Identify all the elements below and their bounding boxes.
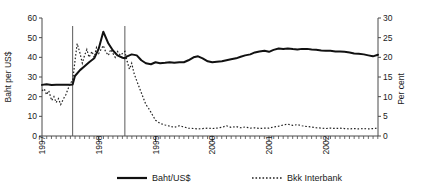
left-axis-tick-label: 40 (28, 52, 38, 62)
legend-label-baht: Baht/US$ (152, 173, 191, 183)
left-axis-tick-label: 60 (28, 13, 38, 23)
legend-label-interbank: Bkk Interbank (287, 173, 343, 183)
x-axis-tick-label: 2001 (264, 135, 274, 154)
right-axis-tick-label: 15 (383, 72, 393, 82)
left-axis-tick-label: 30 (28, 72, 38, 82)
right-axis-tick-label: 10 (383, 92, 393, 102)
left-axis-tick-label: 10 (28, 111, 38, 121)
left-axis-tick-label: 20 (28, 92, 38, 102)
right-axis-tick-label: 30 (383, 13, 393, 23)
axis-labels-group: 0102030405060051015202530199719981999200… (3, 13, 406, 154)
chart-canvas: 0102030405060051015202530199719981999200… (0, 0, 429, 196)
right-axis-tick-label: 25 (383, 33, 393, 43)
x-axis-tick-label: 1999 (151, 135, 161, 154)
x-axis-tick-label: 1998 (94, 135, 104, 154)
left-axis-title: Baht per US$ (3, 51, 13, 102)
x-axis-tick-label: 1997 (37, 135, 47, 154)
data-series-group (42, 32, 378, 129)
x-axis-tick-label: 2000 (207, 135, 217, 154)
axes-group (39, 18, 381, 142)
right-axis-tick-label: 0 (383, 131, 388, 141)
series-baht-us (42, 32, 378, 85)
series-bkk-interbank (42, 44, 378, 129)
exchange-rate-chart: 0102030405060051015202530199719981999200… (0, 0, 429, 196)
chart-legend: Baht/US$Bkk Interbank (117, 173, 343, 183)
left-axis-tick-label: 50 (28, 33, 38, 43)
right-axis-title: Per cent (396, 73, 406, 105)
event-reference-lines (73, 26, 125, 136)
right-axis-tick-label: 5 (383, 111, 388, 121)
x-axis-tick-label: 2002 (321, 135, 331, 154)
right-axis-tick-label: 20 (383, 52, 393, 62)
